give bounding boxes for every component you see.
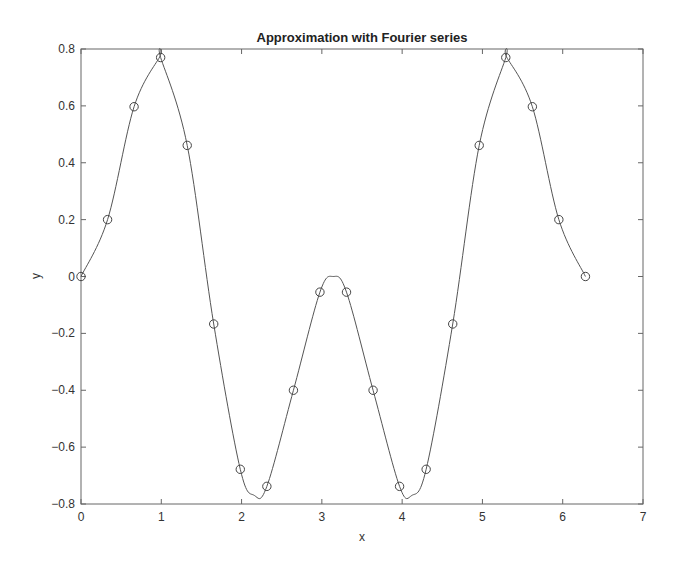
y-tick-label: −0.2 bbox=[51, 326, 75, 340]
x-tick-label: 2 bbox=[238, 510, 245, 524]
y-tick-label: 0.8 bbox=[58, 42, 75, 56]
plot-frame bbox=[81, 49, 643, 504]
x-tick-label: 7 bbox=[640, 510, 647, 524]
y-tick-label: 0.4 bbox=[58, 156, 75, 170]
chart-title: Approximation with Fourier series bbox=[257, 30, 468, 45]
y-tick-label: 0.6 bbox=[58, 99, 75, 113]
x-tick-label: 4 bbox=[399, 510, 406, 524]
chart-figure: Approximation with Fourier series 012345… bbox=[0, 0, 676, 568]
x-tick-label: 0 bbox=[78, 510, 85, 524]
axes: 01234567−0.8−0.6−0.4−0.200.20.40.60.8 bbox=[51, 42, 646, 524]
x-axis-label: x bbox=[359, 530, 365, 544]
x-tick-label: 1 bbox=[158, 510, 165, 524]
y-tick-label: 0.2 bbox=[58, 213, 75, 227]
sample-markers bbox=[77, 53, 590, 490]
y-axis-label: y bbox=[29, 273, 43, 279]
fourier-curve-path bbox=[81, 49, 585, 499]
x-tick-label: 3 bbox=[319, 510, 326, 524]
chart-canvas: Approximation with Fourier series 012345… bbox=[0, 0, 676, 568]
y-tick-label: −0.8 bbox=[51, 497, 75, 511]
fourier-curve bbox=[81, 49, 585, 499]
y-tick-label: 0 bbox=[68, 270, 75, 284]
x-tick-label: 6 bbox=[559, 510, 566, 524]
y-tick-label: −0.6 bbox=[51, 440, 75, 454]
x-tick-label: 5 bbox=[479, 510, 486, 524]
y-tick-label: −0.4 bbox=[51, 383, 75, 397]
